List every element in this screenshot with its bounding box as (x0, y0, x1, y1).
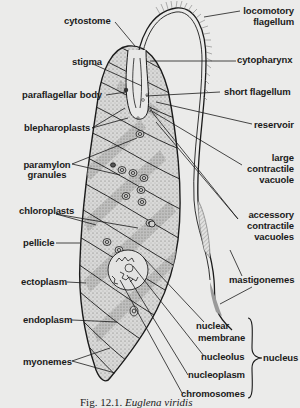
label-nuclear-membrane-line2: membrane (198, 333, 245, 343)
label-nucleolus: nucleolus (201, 352, 244, 362)
label-accessory-contractile-vacuoles-line3: vacuoles (240, 232, 294, 242)
label-large-contractile-vacuole-line2: contractile (240, 164, 294, 174)
label-mastigonemes: mastigonemes (229, 275, 294, 285)
label-large-contractile-vacuole-line1: large (240, 153, 294, 163)
label-accessory-contractile-vacuoles-line2: contractile (240, 221, 294, 231)
label-cytostome: cytostome (64, 16, 111, 26)
stigma-spot (124, 88, 128, 92)
label-stigma: stigma (72, 57, 102, 67)
label-paraflagellar-body: paraflagellar body (22, 90, 102, 100)
label-large-contractile-vacuole-line3: vacuole (240, 175, 294, 185)
label-paramylon-granules-line2: granules (20, 170, 74, 180)
caption-prefix: Fig. 12.1. (80, 396, 122, 408)
label-myonemes: myonemes (23, 357, 72, 367)
label-ectoplasm: ectoplasm (21, 277, 67, 287)
caption-species: Euglena viridis (125, 396, 193, 408)
label-reservoir: reservoir (254, 120, 294, 130)
label-blepharoplasts: blepharoplasts (24, 123, 90, 133)
label-nucleus: nucleus (263, 353, 298, 363)
label-nuclear-membrane-line1: nuclear (196, 321, 229, 331)
nucleus-shape (108, 250, 148, 290)
label-pellicle: pellicle (23, 238, 54, 248)
label-cytopharynx: cytopharynx (237, 55, 292, 65)
euglena-diagram: cytostome stigma paraflagellar body blep… (0, 0, 300, 408)
label-accessory-contractile-vacuoles-line1: accessory (240, 210, 294, 220)
label-locomotory-flagellum-line2: flagellum (240, 17, 294, 27)
label-chloroplasts: chloroplasts (19, 206, 74, 216)
figure-caption: Fig. 12.1. Euglena viridis (80, 396, 192, 408)
label-endoplasm: endoplasm (23, 315, 72, 325)
label-locomotory-flagellum-line1: locomotory (240, 6, 294, 16)
label-nucleoplasm: nucleoplasm (188, 370, 245, 380)
label-short-flagellum: short flagellum (224, 87, 291, 97)
